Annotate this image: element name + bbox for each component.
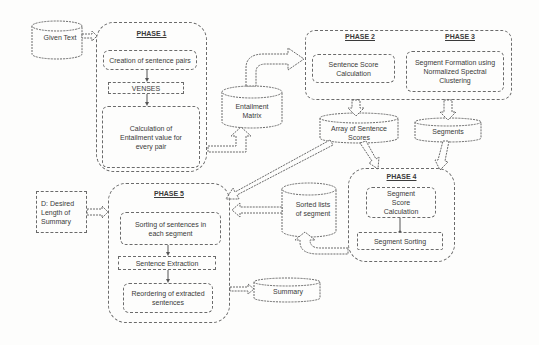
p3-segment-formation: Segment Formation using Normalized Spect… — [406, 51, 504, 92]
p5-sort-sentences-label: Sorting of sentences in each segment — [121, 220, 220, 238]
p4-segment-score-label: Segment Score Calculation — [367, 189, 435, 216]
sorted-lists-label: Sorted lists of segment — [292, 200, 334, 218]
array-scores-label: Array of Sentence Scores — [324, 124, 394, 142]
p1-calc-entailment-label: Calculation of Entailment value for ever… — [103, 124, 199, 151]
p5-sort-sentences: Sorting of sentences in each segment — [120, 212, 221, 245]
desired-length-box: D: Desired Length of Summary — [36, 191, 87, 233]
phase3-title: PHASE 3 — [420, 33, 500, 40]
p5-sentence-extraction: Sentence Extraction — [118, 256, 216, 270]
phase1-title: PHASE 1 — [97, 30, 206, 37]
p1-venses-label: VENSES — [132, 84, 160, 93]
entailment-matrix-label: Entailment Matrix — [226, 102, 278, 120]
summary-label: Summary — [258, 287, 318, 296]
p5-sentence-extraction-label: Sentence Extraction — [136, 259, 199, 268]
p2-sentence-score: Sentence Score Calculation — [312, 54, 395, 83]
given-text-label: Given Text — [38, 33, 82, 42]
phase4-title: PHASE 4 — [349, 173, 454, 180]
segments-label: Segments — [418, 127, 478, 136]
p3-segment-formation-label: Segment Formation using Normalized Spect… — [407, 58, 503, 85]
p5-reordering-label: Reordering of extracted sentences — [124, 289, 212, 307]
p4-segment-score: Segment Score Calculation — [366, 187, 436, 218]
p1-venses: VENSES — [108, 82, 184, 94]
p1-create-pairs: Creation of sentence pairs — [103, 50, 197, 70]
phase5-title: PHASE 5 — [109, 190, 229, 197]
desired-length-label: D: Desired Length of Summary — [41, 199, 86, 226]
p4-segment-sorting: Segment Sorting — [357, 232, 443, 250]
p1-create-pairs-label: Creation of sentence pairs — [109, 56, 191, 65]
p2-sentence-score-label: Sentence Score Calculation — [313, 60, 394, 78]
p5-reordering: Reordering of extracted sentences — [123, 283, 213, 313]
p4-segment-sorting-label: Segment Sorting — [374, 237, 426, 246]
phase2-title: PHASE 2 — [320, 33, 400, 40]
p1-calc-entailment: Calculation of Entailment value for ever… — [102, 106, 200, 168]
pipeline-diagram: .s { fill: #fdfdfc; stroke: #6a6a6a; str… — [0, 0, 539, 345]
